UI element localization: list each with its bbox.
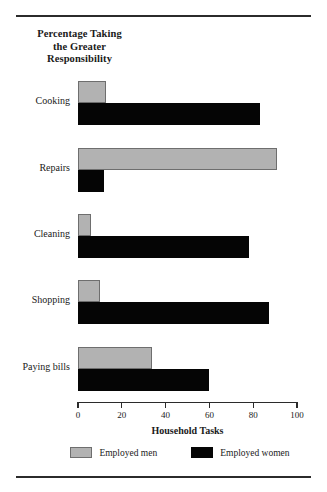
legend-label-employed-men: Employed men bbox=[99, 448, 157, 458]
legend-item-employed-men: Employed men bbox=[70, 447, 157, 458]
chart-title-line-3: Responsibility bbox=[12, 53, 147, 66]
category-label-cooking: Cooking bbox=[0, 95, 70, 106]
bar-employed-men bbox=[78, 347, 152, 369]
x-axis-tick-label: 60 bbox=[205, 410, 214, 420]
bottom-divider-rule bbox=[16, 476, 311, 478]
gray-swatch-icon bbox=[70, 447, 92, 458]
bar-employed-women bbox=[78, 236, 249, 258]
bar-group bbox=[78, 347, 297, 391]
x-axis-tick-label: 80 bbox=[249, 410, 258, 420]
black-swatch-icon bbox=[191, 447, 213, 458]
chart-title-line-1: Percentage Taking bbox=[12, 28, 147, 41]
bar-group bbox=[78, 214, 297, 258]
bar-employed-women bbox=[78, 302, 269, 324]
bar-employed-women bbox=[78, 170, 104, 192]
chart-title-line-2: the Greater bbox=[12, 41, 147, 54]
bar-group bbox=[78, 280, 297, 324]
bar-employed-men bbox=[78, 280, 100, 302]
x-axis-tick-label: 100 bbox=[290, 410, 304, 420]
plot-area: Household Tasks 020406080100CookingRepai… bbox=[78, 70, 297, 402]
x-axis-tick bbox=[121, 402, 122, 408]
top-divider-rule bbox=[16, 15, 311, 17]
bar-employed-women bbox=[78, 103, 260, 125]
bar-chart-figure: Percentage Taking the Greater Responsibi… bbox=[0, 0, 327, 492]
x-axis-tick-label: 0 bbox=[76, 410, 81, 420]
bar-employed-men bbox=[78, 214, 91, 236]
category-label-paying-bills: Paying bills bbox=[0, 361, 70, 372]
legend-label-employed-women: Employed women bbox=[220, 448, 289, 458]
category-label-shopping: Shopping bbox=[0, 294, 70, 305]
x-axis-tick bbox=[77, 402, 78, 408]
x-axis-tick bbox=[165, 402, 166, 408]
chart-legend: Employed men Employed women bbox=[60, 447, 300, 458]
x-axis-tick bbox=[253, 402, 254, 408]
x-axis-tick bbox=[209, 402, 210, 408]
bar-employed-men bbox=[78, 148, 277, 170]
legend-item-employed-women: Employed women bbox=[191, 447, 289, 458]
bar-group bbox=[78, 148, 297, 192]
bar-employed-women bbox=[78, 369, 209, 391]
bar-employed-men bbox=[78, 81, 106, 103]
chart-title: Percentage Taking the Greater Responsibi… bbox=[12, 28, 147, 66]
x-axis-tick-label: 40 bbox=[161, 410, 170, 420]
bar-group bbox=[78, 81, 297, 125]
x-axis-tick-label: 20 bbox=[117, 410, 126, 420]
x-axis-line bbox=[78, 402, 297, 403]
category-label-repairs: Repairs bbox=[0, 162, 70, 173]
x-axis-label: Household Tasks bbox=[78, 425, 297, 436]
x-axis-tick bbox=[296, 402, 297, 408]
category-label-cleaning: Cleaning bbox=[0, 228, 70, 239]
